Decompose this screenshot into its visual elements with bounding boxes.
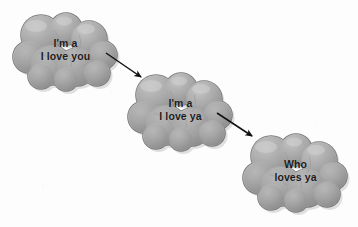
cloud-1-line1: I'm a: [33, 37, 98, 50]
cloud-3-label: Who loves ya: [263, 158, 328, 183]
cloud-3-line1: Who: [263, 158, 328, 171]
cloud-2-label: I'm a I love ya: [148, 97, 213, 122]
figure-canvas: I'm a I love you I'm a I love ya Who lov…: [0, 0, 358, 227]
cloud-2-line2: I love ya: [148, 110, 213, 123]
cloud-2-line1: I'm a: [148, 97, 213, 110]
cloud-1-label: I'm a I love you: [33, 37, 98, 62]
cloud-1-line2: I love you: [33, 50, 98, 63]
cloud-3-line2: loves ya: [263, 171, 328, 184]
